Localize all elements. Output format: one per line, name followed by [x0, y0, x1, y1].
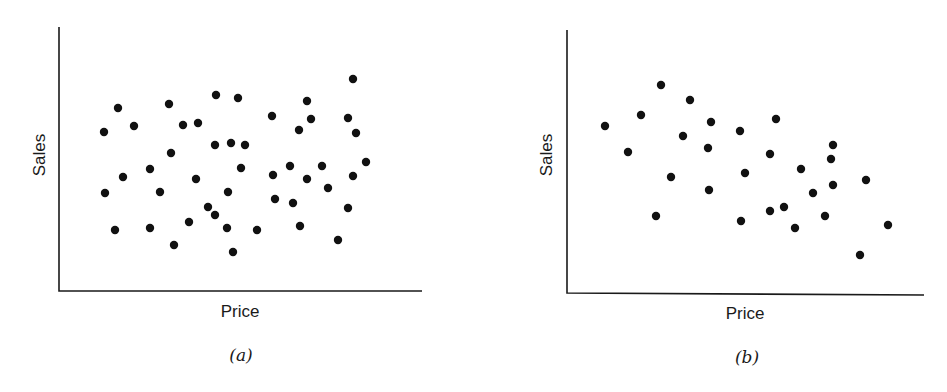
data-point	[821, 212, 829, 220]
data-point	[741, 169, 749, 177]
data-point	[241, 141, 249, 149]
y-axis-label-b: Sales	[537, 134, 556, 177]
panel-a: Sales Price (a)	[30, 27, 422, 365]
data-point	[704, 144, 712, 152]
data-point	[707, 118, 715, 126]
data-point	[289, 199, 297, 207]
data-point	[204, 203, 212, 211]
data-point	[780, 203, 788, 211]
data-point	[862, 176, 870, 184]
data-point	[766, 207, 774, 215]
data-point	[114, 104, 122, 112]
data-point	[809, 189, 817, 197]
data-point	[829, 181, 837, 189]
data-point	[212, 91, 220, 99]
points-b	[601, 81, 892, 259]
data-point	[766, 150, 774, 158]
panel-b: Sales Price (b)	[537, 30, 924, 367]
data-point	[352, 129, 360, 137]
data-point	[192, 175, 200, 183]
data-point	[679, 132, 687, 140]
data-point	[791, 224, 799, 232]
data-point	[185, 218, 193, 226]
data-point	[146, 224, 154, 232]
data-point	[211, 211, 219, 219]
data-point	[170, 241, 178, 249]
data-point	[705, 186, 713, 194]
data-point	[156, 188, 164, 196]
data-point	[101, 189, 109, 197]
data-point	[271, 195, 279, 203]
data-point	[223, 224, 231, 232]
data-point	[667, 173, 675, 181]
data-point	[344, 114, 352, 122]
caption-a: (a)	[229, 345, 252, 365]
data-point	[268, 112, 276, 120]
data-point	[234, 94, 242, 102]
y-axis-label-a: Sales	[30, 134, 49, 177]
data-point	[224, 188, 232, 196]
data-point	[296, 222, 304, 230]
data-point	[269, 171, 277, 179]
data-point	[686, 96, 694, 104]
caption-b: (b)	[735, 347, 759, 367]
data-point	[884, 221, 892, 229]
data-point	[286, 162, 294, 170]
data-point	[307, 115, 315, 123]
data-point	[772, 115, 780, 123]
x-axis-label-b: Price	[726, 304, 765, 323]
data-point	[253, 226, 261, 234]
data-point	[111, 226, 119, 234]
data-point	[227, 139, 235, 147]
data-point	[856, 251, 864, 259]
data-point	[165, 100, 173, 108]
data-point	[737, 217, 745, 225]
data-point	[100, 128, 108, 136]
data-point	[362, 158, 370, 166]
data-point	[349, 75, 357, 83]
data-point	[229, 248, 237, 256]
data-point	[344, 204, 352, 212]
data-point	[652, 212, 660, 220]
data-point	[349, 172, 357, 180]
data-point	[334, 236, 342, 244]
data-point	[130, 122, 138, 130]
data-point	[119, 173, 127, 181]
data-point	[303, 175, 311, 183]
data-point	[624, 148, 632, 156]
data-point	[829, 141, 837, 149]
data-point	[736, 127, 744, 135]
data-point	[324, 184, 332, 192]
data-point	[303, 97, 311, 105]
axes-b	[567, 30, 924, 295]
data-point	[318, 162, 326, 170]
scatter-figure: Sales Price (a) Sales Price (b)	[0, 0, 947, 392]
data-point	[657, 81, 665, 89]
data-point	[637, 111, 645, 119]
data-point	[179, 121, 187, 129]
data-point	[295, 126, 303, 134]
data-point	[827, 155, 835, 163]
data-point	[211, 141, 219, 149]
points-a	[100, 75, 370, 256]
data-point	[194, 119, 202, 127]
data-point	[601, 122, 609, 130]
data-point	[237, 164, 245, 172]
data-point	[146, 165, 154, 173]
data-point	[167, 149, 175, 157]
x-axis-label-a: Price	[221, 302, 260, 321]
data-point	[797, 165, 805, 173]
